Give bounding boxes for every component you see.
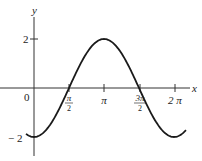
y-tick-label-neg2: − 2 — [8, 132, 22, 144]
y-axis-label: y — [31, 4, 37, 16]
y-tick-label-2: 2 — [23, 33, 29, 45]
svg-text:π: π — [67, 93, 72, 103]
svg-text:2: 2 — [138, 104, 142, 113]
cosine-chart: y x 0 2 − 2 π 2 π 3π 2 2 π — [0, 0, 202, 161]
svg-text:2: 2 — [67, 104, 71, 113]
x-tick-label-3pi-over-2: 3π 2 — [134, 93, 146, 113]
x-tick-label-pi: π — [101, 94, 107, 106]
x-axis-label: x — [191, 82, 197, 94]
origin-label: 0 — [24, 91, 30, 103]
x-tick-label-2pi: 2 π — [168, 94, 182, 106]
